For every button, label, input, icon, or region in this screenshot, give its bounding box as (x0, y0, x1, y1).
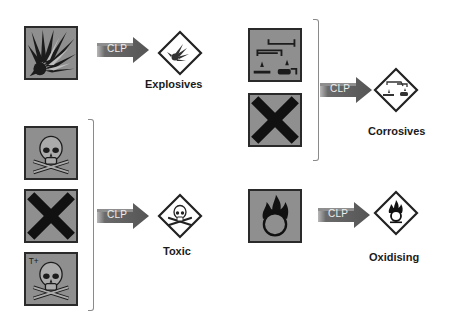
flame-over-circle-icon (248, 189, 302, 243)
ghs-flame-over-circle-icon (373, 190, 419, 236)
category-label-corrosives: Corrosives (368, 125, 425, 137)
svg-text:T+: T+ (29, 256, 39, 266)
group-bracket (88, 119, 94, 311)
skull-crossbones-t-plus-icon: T+ (24, 252, 78, 306)
saltire-x-icon (248, 93, 302, 147)
saltire-x-icon (24, 189, 78, 243)
clp-label: CLP (328, 208, 348, 219)
clp-arrow: CLP (97, 203, 149, 229)
clp-label: CLP (107, 43, 127, 54)
clp-arrow: CLP (320, 77, 372, 103)
clp-arrow: CLP (97, 37, 149, 63)
clp-arrow: CLP (318, 202, 370, 228)
ghs-corrosion-icon (373, 67, 419, 113)
category-label-explosives: Explosives (145, 78, 202, 90)
ghs-skull-crossbones-icon (157, 193, 203, 239)
exploding-bomb-icon (24, 26, 78, 80)
group-bracket (313, 19, 319, 161)
clp-label: CLP (107, 209, 127, 220)
skull-crossbones-icon (24, 126, 78, 180)
clp-label: CLP (330, 83, 350, 94)
ghs-exploding-bomb-icon (157, 30, 203, 76)
category-label-oxidising: Oxidising (369, 251, 419, 263)
category-label-toxic: Toxic (163, 245, 191, 257)
corrosion-icon (248, 28, 302, 82)
